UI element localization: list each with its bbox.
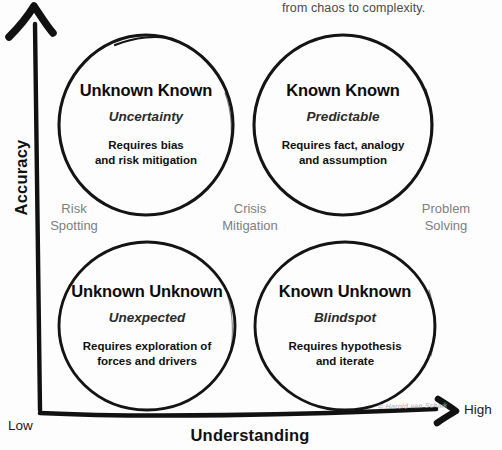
copyright-signature: © Harold van Schaik: [378, 402, 448, 410]
caption-crisis-mitigation: Crisis Mitigation: [208, 200, 292, 234]
quadrant-known-unknown[interactable]: Known Unknown Blindspot Requires hypothe…: [251, 238, 439, 414]
circle-outline-icon: [251, 238, 439, 414]
diagram-canvas: from chaos to complexity. Accuracy Under…: [0, 0, 502, 450]
circle-outline-icon: [250, 31, 436, 219]
quadrant-known-known[interactable]: Known Known Predictable Requires fact, a…: [250, 31, 436, 219]
caption-risk-spotting: Risk Spotting: [40, 200, 108, 234]
caption-problem-solving: Problem Solving: [404, 200, 488, 234]
quadrant-unknown-known[interactable]: Unknown Known Uncertainty Requires bias …: [55, 31, 237, 219]
y-axis-arrowhead: [9, 6, 53, 37]
axis-origin-label: Low: [8, 418, 33, 433]
axis-max-label: High: [464, 402, 492, 417]
circle-outline-icon: [55, 31, 237, 219]
y-axis-title: Accuracy: [12, 133, 31, 223]
quadrant-unknown-unknown[interactable]: Unknown Unknown Unexpected Requires expl…: [55, 238, 239, 414]
x-axis-title: Understanding: [150, 426, 350, 445]
circle-outline-icon: [55, 238, 239, 414]
